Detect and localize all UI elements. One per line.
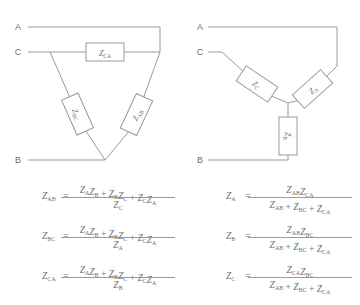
equation-right-1-denominator: ZAB + ZBC + ZCA — [270, 240, 331, 255]
delta-terminal-a: A — [15, 22, 21, 32]
impedance-zc: ZC — [236, 66, 278, 102]
equation-left-2: ZCA=ZAZB + ZBZC + ZCZAZB — [42, 265, 175, 291]
wye-terminal-b: B — [197, 155, 203, 165]
delta-terminal-b: B — [15, 155, 21, 165]
delta-wye-figure: ZCA ZBC ZAB A C B — [0, 0, 360, 305]
equation-right-2-lhs: ZC — [226, 271, 235, 282]
equation-right-1: ZB=ZABZBCZAB + ZBC + ZCA — [226, 225, 352, 255]
equation-left-0-denominator: ZC — [113, 200, 122, 211]
equation-left-2-equals: = — [63, 271, 69, 281]
equation-right-2-equals: = — [245, 271, 251, 281]
equation-right-2-denominator: ZAB + ZBC + ZCA — [270, 280, 331, 295]
equation-left-1-equals: = — [63, 231, 69, 241]
equation-right-1-equals: = — [245, 231, 251, 241]
equation-right-0-denominator: ZAB + ZBC + ZCA — [270, 200, 331, 215]
impedance-zab: ZAB — [120, 93, 152, 135]
impedance-za: ZA — [292, 70, 332, 109]
delta-wire-right-lower — [105, 130, 130, 160]
delta-network: ZCA ZBC ZAB A C B — [15, 22, 160, 165]
equation-left-2-denominator: ZB — [113, 280, 122, 291]
equation-right-0: ZA=ZABZCAZAB + ZBC + ZCA — [226, 185, 352, 215]
wye-terminal-c: C — [197, 47, 204, 57]
delta-wire-left-lower — [84, 128, 105, 160]
wye-network: ZC ZA ZB A C B — [197, 22, 337, 165]
equation-right-1-numerator: ZABZBC — [287, 225, 314, 238]
impedance-zca: ZCA — [86, 43, 124, 61]
wye-wire-c — [208, 52, 245, 73]
equation-right-2: ZC=ZCAZBCZAB + ZBC + ZCA — [226, 265, 352, 295]
equation-right-0-numerator: ZABZCA — [286, 185, 314, 198]
wye-wire-b — [208, 150, 288, 160]
delta-terminal-c: C — [15, 47, 22, 57]
wye-wire-a — [208, 27, 337, 78]
equation-right-1-lhs: ZB — [226, 231, 235, 242]
impedance-zbc: ZBC — [62, 93, 94, 135]
equations-layer: ZAB=ZAZB + ZBZC + ZCZAZCZBC=ZAZB + ZBZC … — [42, 185, 352, 295]
delta-wire-right-upper — [143, 52, 160, 99]
wye-terminal-a: A — [197, 22, 203, 32]
equation-right-0-lhs: ZA — [226, 191, 236, 202]
impedance-zb: ZB — [279, 117, 297, 155]
equation-left-1: ZBC=ZAZB + ZBZC + ZCZAZA — [42, 225, 175, 251]
equation-left-0-lhs: ZAB — [42, 191, 56, 202]
equation-left-1-denominator: ZA — [113, 240, 123, 251]
equation-left-2-lhs: ZCA — [42, 271, 56, 282]
equation-right-2-numerator: ZCAZBC — [287, 265, 314, 278]
equation-left-1-lhs: ZBC — [42, 231, 55, 242]
equation-left-0: ZAB=ZAZB + ZBZC + ZCZAZC — [42, 185, 175, 211]
equation-right-0-equals: = — [245, 191, 251, 201]
equation-left-0-equals: = — [63, 191, 69, 201]
delta-wire-left-upper — [50, 52, 71, 100]
